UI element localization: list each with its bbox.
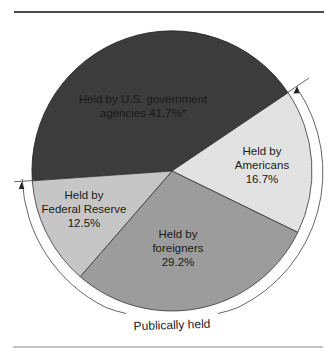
label-fed-line1: Held by (65, 189, 104, 201)
label-publically-held: Publically held (133, 317, 210, 334)
label-foreigners-value: 29.2% (162, 256, 195, 268)
label-fed-value: 12.5% (68, 217, 101, 229)
label-foreigners-line1: Held by (159, 228, 198, 240)
label-foreigners-line2: foreigners (152, 242, 203, 254)
label-americans-line2: Americans (235, 159, 290, 171)
pie-chart: Held by U.S. government agencies 41.7%* … (0, 0, 336, 361)
label-gov-line2: agencies 41.7%* (100, 107, 187, 119)
arrow-up-left-icon (19, 182, 25, 189)
label-fed-line2: Federal Reserve (41, 203, 126, 215)
label-americans-line1: Held by (243, 145, 282, 157)
label-gov-line1: Held by U.S. government (79, 93, 208, 105)
label-americans-value: 16.7% (246, 173, 279, 185)
